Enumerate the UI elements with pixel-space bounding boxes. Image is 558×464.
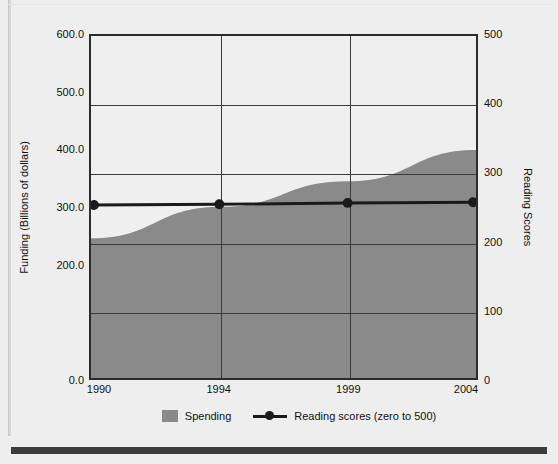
bottom-rule bbox=[11, 447, 547, 454]
legend-item-spending: Spending bbox=[162, 410, 232, 422]
chart-legend: Spending Reading scores (zero to 500) bbox=[89, 406, 509, 426]
x-axis-tick-label: 1994 bbox=[206, 383, 230, 395]
x-axis-ticks: 1990199419992004 bbox=[89, 383, 478, 401]
y-axis-right-ticks: 5004003002001000 bbox=[484, 34, 524, 380]
y-axis-right-tick-label: 100 bbox=[484, 305, 502, 317]
legend-item-reading-scores: Reading scores (zero to 500) bbox=[253, 410, 436, 422]
plot-area bbox=[89, 34, 478, 380]
y-axis-left-ticks: 600.0500.0400.0300.0200.00.0 bbox=[0, 34, 84, 380]
y-axis-left-tick-label: 300.0 bbox=[56, 201, 84, 213]
figure-top-border bbox=[8, 4, 552, 5]
y-axis-left-tick-label: 0.0 bbox=[69, 374, 84, 386]
y-axis-left-tick-label: 500.0 bbox=[56, 86, 84, 98]
data-point-marker bbox=[214, 199, 224, 209]
x-axis-tick-label: 1990 bbox=[87, 383, 111, 395]
y-axis-right-tick-label: 400 bbox=[484, 97, 502, 109]
y-axis-left-tick-label: 200.0 bbox=[56, 259, 84, 271]
chart-figure: Funding (Billions of dollars) Reading Sc… bbox=[0, 0, 558, 464]
y-axis-right-tick-label: 500 bbox=[484, 28, 502, 40]
x-axis-tick-label: 1999 bbox=[336, 383, 360, 395]
data-point-marker bbox=[343, 198, 353, 208]
line-marker-icon bbox=[253, 410, 287, 422]
y-axis-left-tick-label: 600.0 bbox=[56, 28, 84, 40]
legend-label-reading-scores: Reading scores (zero to 500) bbox=[294, 410, 436, 422]
y-axis-right-tick-label: 0 bbox=[484, 374, 490, 386]
legend-label-spending: Spending bbox=[185, 410, 232, 422]
reading-scores-line-series bbox=[91, 36, 476, 378]
reading-scores-line-path bbox=[91, 202, 476, 205]
y-axis-left-tick-label: 400.0 bbox=[56, 143, 84, 155]
data-point-marker bbox=[91, 200, 99, 210]
y-axis-right-tick-label: 300 bbox=[484, 166, 502, 178]
x-axis-tick-label: 2004 bbox=[454, 383, 478, 395]
y-axis-right-tick-label: 200 bbox=[484, 236, 502, 248]
data-point-marker bbox=[468, 197, 476, 207]
swatch-icon bbox=[162, 410, 178, 422]
